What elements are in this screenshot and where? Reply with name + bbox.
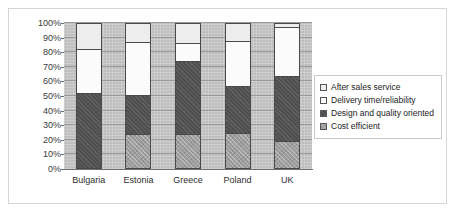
bar-segment[interactable]: [125, 95, 151, 134]
bar-segment[interactable]: [274, 76, 300, 142]
y-axis-tick-label: 90%: [13, 34, 61, 43]
bar-column[interactable]: [76, 23, 102, 169]
legend-swatch-icon: [320, 123, 327, 130]
y-axis-tick-label: 80%: [13, 48, 61, 57]
bar-segment[interactable]: [225, 86, 251, 133]
y-axis-tick-label: 100%: [13, 19, 61, 28]
bar-stack: [175, 23, 201, 169]
legend-item[interactable]: Cost efficient: [320, 120, 437, 133]
legend-label: Delivery time/reliability: [331, 96, 416, 105]
y-axis: 100%90%80%70%60%50%40%30%20%10%0%: [9, 23, 61, 169]
bar-segment[interactable]: [274, 141, 300, 169]
bar-column[interactable]: [274, 23, 300, 169]
y-axis-tick-label: 20%: [13, 136, 61, 145]
legend-swatch-icon: [320, 97, 327, 104]
bar-segment[interactable]: [76, 49, 102, 93]
bar-segment[interactable]: [76, 93, 102, 169]
y-axis-tick-label: 30%: [13, 121, 61, 130]
legend-label: After sales service: [331, 83, 400, 92]
y-axis-tick-label: 50%: [13, 92, 61, 101]
bar-column[interactable]: [225, 23, 251, 169]
plot-area: [64, 23, 312, 169]
bar-segment[interactable]: [76, 23, 102, 49]
chart-legend: After sales serviceDelivery time/reliabi…: [314, 75, 442, 139]
bar-segment[interactable]: [125, 42, 151, 95]
bar-stack: [125, 23, 151, 169]
y-axis-tick-label: 60%: [13, 77, 61, 86]
bar-stack: [225, 23, 251, 169]
legend-swatch-icon: [320, 110, 327, 117]
legend-label: Design and quality oriented: [331, 109, 434, 118]
y-axis-tick-label: 10%: [13, 150, 61, 159]
y-axis-tick-label: 0%: [13, 165, 61, 174]
x-axis-line: [64, 169, 313, 170]
y-axis-tick-label: 70%: [13, 63, 61, 72]
bar-segment[interactable]: [225, 133, 251, 170]
bar-column[interactable]: [125, 23, 151, 169]
bar-segment[interactable]: [225, 23, 251, 41]
bar-segment[interactable]: [175, 23, 201, 43]
bar-segment[interactable]: [225, 41, 251, 86]
legend-item[interactable]: Design and quality oriented: [320, 107, 437, 120]
chart-frame: 100%90%80%70%60%50%40%30%20%10%0% After …: [8, 8, 447, 204]
legend-item[interactable]: Delivery time/reliability: [320, 94, 437, 107]
legend-swatch-icon: [320, 84, 327, 91]
bar-segment[interactable]: [274, 27, 300, 75]
y-axis-tick-label: 40%: [13, 107, 61, 116]
bar-stack: [274, 23, 300, 169]
bar-segment[interactable]: [175, 134, 201, 169]
bar-stack: [76, 23, 102, 169]
bar-segment[interactable]: [125, 23, 151, 42]
legend-label: Cost efficient: [331, 122, 380, 131]
x-axis-tick-label: UK: [257, 175, 317, 185]
bar-column[interactable]: [175, 23, 201, 169]
bar-segment[interactable]: [125, 134, 151, 169]
legend-item[interactable]: After sales service: [320, 81, 437, 94]
bar-segment[interactable]: [175, 43, 201, 61]
bar-segment[interactable]: [175, 61, 201, 134]
